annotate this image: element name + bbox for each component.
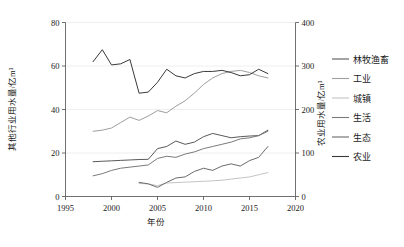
series-line-农业 (93, 50, 268, 94)
legend-label-林牧渔畜: 林牧渔畜 (353, 54, 389, 65)
y-left-tick-label: 0 (55, 192, 59, 202)
x-tick-label: 2015 (241, 203, 258, 213)
x-axis-title: 年份 (147, 217, 165, 227)
series-line-工业 (93, 70, 268, 131)
legend-item[interactable]: 生态 (332, 132, 371, 143)
series-line-林牧渔畜 (93, 130, 268, 162)
line-chart: 199520002005201020152020 020406080 01002… (0, 0, 404, 247)
y-left-tick-label: 80 (51, 18, 60, 28)
chart-legend: 林牧渔畜工业城镇生活生态农业 (332, 54, 389, 163)
y-left-tick-label: 40 (51, 105, 60, 115)
legend-item[interactable]: 工业 (332, 74, 371, 84)
legend-item[interactable]: 生活 (332, 112, 371, 123)
x-tick-label: 1995 (57, 203, 74, 213)
y-right-tick-label: 0 (302, 192, 306, 202)
y-left-tick-label: 20 (51, 148, 60, 158)
legend-item[interactable]: 林牧渔畜 (332, 54, 389, 65)
legend-label-城镇: 城镇 (353, 93, 371, 104)
y-axis-left-title: 其他行业用水量/亿m³ (7, 67, 17, 151)
y-right-tick-label: 100 (302, 148, 315, 158)
x-tick-label: 2020 (287, 203, 304, 213)
x-tick-label: 2005 (149, 203, 166, 213)
legend-item[interactable]: 城镇 (332, 93, 371, 104)
x-tick-label: 2000 (103, 203, 120, 213)
gridlines (66, 23, 296, 154)
x-axis-ticks: 199520002005201020152020 (57, 197, 304, 213)
chart-container: 199520002005201020152020 020406080 01002… (0, 0, 404, 247)
legend-label-生活: 生活 (353, 112, 371, 123)
series-line-城镇 (139, 173, 268, 186)
series-line-生活 (93, 131, 268, 176)
legend-label-农业: 农业 (353, 151, 371, 162)
x-tick-label: 2010 (195, 203, 212, 213)
y-axis-left-ticks: 020406080 (51, 18, 66, 202)
y-right-tick-label: 400 (302, 18, 315, 28)
y-axis-right-ticks: 0100200300400 (296, 18, 315, 202)
y-left-tick-label: 60 (51, 61, 60, 71)
data-series-group (93, 50, 268, 188)
legend-item[interactable]: 农业 (332, 151, 371, 162)
y-right-tick-label: 300 (302, 61, 315, 71)
legend-label-工业: 工业 (353, 74, 371, 84)
legend-label-生态: 生态 (353, 132, 371, 143)
y-axis-right-title: 农业用水量/亿m³ (316, 80, 326, 146)
y-right-tick-label: 200 (302, 105, 315, 115)
